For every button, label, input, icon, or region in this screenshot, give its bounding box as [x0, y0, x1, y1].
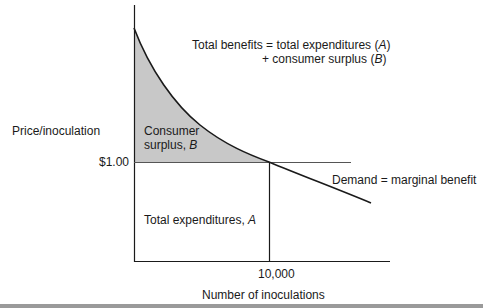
total-benefits-line2: + consumer surplus (B): [262, 52, 386, 66]
bottom-border: [0, 304, 483, 308]
text: ): [386, 38, 390, 52]
consumer-surplus-label: Consumer surplus, B: [144, 124, 199, 152]
x-axis-label: Number of inoculations: [202, 288, 325, 302]
text: surplus, B: [144, 138, 199, 152]
y-axis-label: Price/inoculation: [12, 124, 100, 138]
price-tick-label: $1.00: [99, 155, 129, 169]
text: ): [382, 52, 386, 66]
total-benefits-line1: Total benefits = total expenditures (A): [192, 38, 390, 52]
text: Consumer: [144, 124, 199, 138]
text: surplus,: [144, 138, 189, 152]
text: + consumer surplus (: [262, 52, 374, 66]
demand-label: Demand = marginal benefit: [332, 173, 476, 187]
var-a: A: [248, 213, 256, 227]
text: Total expenditures,: [144, 213, 248, 227]
quantity-tick-label: 10,000: [258, 267, 295, 281]
var-b: B: [189, 138, 197, 152]
total-expenditures-label: Total expenditures, A: [144, 213, 256, 227]
text: Total benefits = total expenditures (: [192, 38, 378, 52]
